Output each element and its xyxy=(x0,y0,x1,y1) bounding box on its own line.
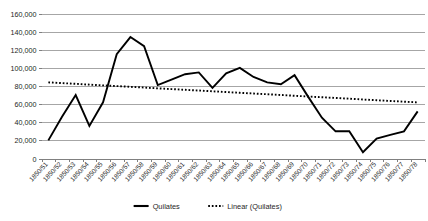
gridlines-group xyxy=(42,15,425,160)
y-axis-tick-label: 160,000 xyxy=(11,10,37,19)
x-axis-labels-group: 1850/511850/521850/531850/541850/551850/… xyxy=(28,160,419,182)
chart-legend: QuilatesLinear (Quilates) xyxy=(134,202,282,211)
y-axis-tick-label: 140,000 xyxy=(11,28,37,37)
y-axis-tick-label: 60,000 xyxy=(15,100,37,109)
legend-label: Quilates xyxy=(153,202,180,211)
series-line-quilates xyxy=(48,37,417,152)
legend-label: Linear (Quilates) xyxy=(227,202,282,211)
y-axis-tick-label: 120,000 xyxy=(11,46,37,55)
y-axis-tick-label: 0 xyxy=(33,155,37,164)
y-axis-tick-label: 100,000 xyxy=(11,64,37,73)
y-axis-tick-label: 80,000 xyxy=(15,82,37,91)
y-axis-labels-group: 160,000140,000120,000100,00080,00060,000… xyxy=(11,10,37,164)
y-axis-tick-label: 40,000 xyxy=(15,118,37,127)
line-chart: 160,000140,000120,000100,00080,00060,000… xyxy=(0,0,428,221)
chart-container: 160,000140,000120,000100,00080,00060,000… xyxy=(0,0,428,221)
y-axis-tick-label: 20,000 xyxy=(15,136,37,145)
y-tick-marks-group xyxy=(39,15,42,160)
